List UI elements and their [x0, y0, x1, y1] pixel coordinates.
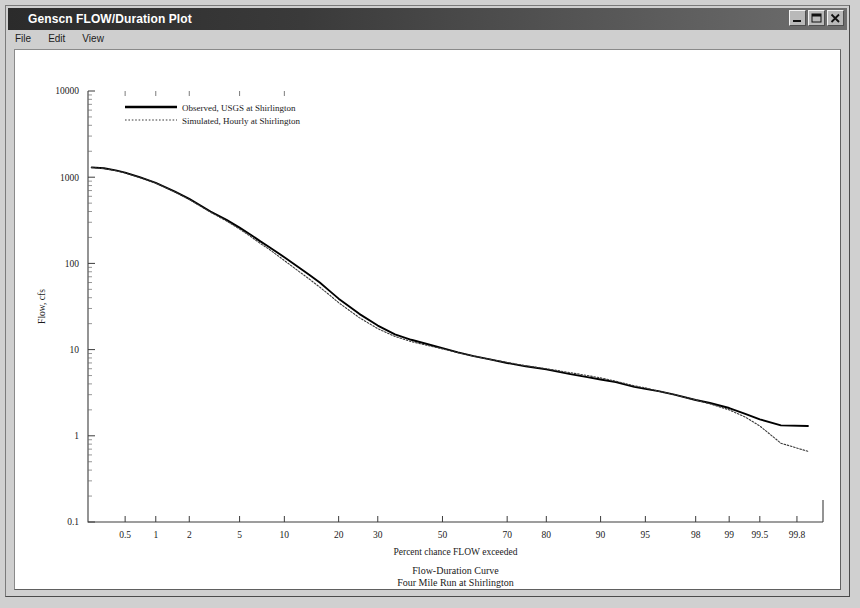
- menu-bar: File Edit View: [8, 30, 847, 46]
- x-tick-label: 90: [596, 530, 606, 540]
- menu-item-view[interactable]: View: [80, 33, 106, 44]
- x-tick-label: 2: [187, 530, 192, 540]
- title-bar[interactable]: Genscn FLOW/Duration Plot: [8, 8, 847, 30]
- maximize-button[interactable]: [808, 10, 825, 26]
- x-tick-label: 0.5: [119, 530, 131, 540]
- window-title: Genscn FLOW/Duration Plot: [28, 12, 192, 26]
- screen: Genscn FLOW/Duration Plot File Edit View…: [0, 0, 860, 608]
- close-button[interactable]: [827, 10, 844, 26]
- menu-item-edit[interactable]: Edit: [46, 33, 67, 44]
- series-line-2: [92, 168, 808, 452]
- x-tick-label: 99.8: [789, 530, 806, 540]
- x-tick-label: 10: [280, 530, 290, 540]
- y-tick-label: 1000: [60, 173, 79, 183]
- y-axis-title: Flow, cfs: [37, 289, 47, 324]
- x-tick-label: 50: [438, 530, 448, 540]
- window-controls: [789, 10, 844, 26]
- minimize-button[interactable]: [789, 10, 806, 26]
- y-tick-label: 10000: [55, 86, 79, 96]
- y-tick-label: 0.1: [67, 517, 79, 527]
- x-tick-label: 80: [542, 530, 552, 540]
- flow-duration-plot: 1000010001001010.10.51251020305070809095…: [15, 50, 840, 589]
- y-tick-label: 10: [70, 345, 80, 355]
- x-tick-label: 20: [334, 530, 344, 540]
- y-tick-label: 1: [74, 431, 79, 441]
- x-tick-label: 5: [237, 530, 242, 540]
- x-axis-title: Percent chance FLOW exceeded: [393, 547, 517, 557]
- series-line-1: [92, 167, 808, 426]
- menu-item-file[interactable]: File: [13, 33, 33, 44]
- x-tick-label: 98: [691, 530, 701, 540]
- x-tick-label: 95: [641, 530, 651, 540]
- chart-subtitle: Four Mile Run at Shirlington: [397, 577, 514, 588]
- x-tick-label: 1: [153, 530, 158, 540]
- x-tick-label: 70: [502, 530, 512, 540]
- legend-label-1: Observed, USGS at Shirlington: [182, 103, 296, 113]
- application-window: Genscn FLOW/Duration Plot File Edit View…: [5, 5, 850, 597]
- plot-canvas: 1000010001001010.10.51251020305070809095…: [14, 49, 841, 590]
- x-tick-label: 99: [724, 530, 734, 540]
- axis-frame: [88, 91, 823, 522]
- x-tick-label: 99.5: [752, 530, 769, 540]
- y-tick-label: 100: [65, 259, 80, 269]
- chart-title: Flow-Duration Curve: [412, 565, 499, 576]
- x-tick-label: 30: [373, 530, 383, 540]
- legend-label-2: Simulated, Hourly at Shirlington: [182, 116, 300, 126]
